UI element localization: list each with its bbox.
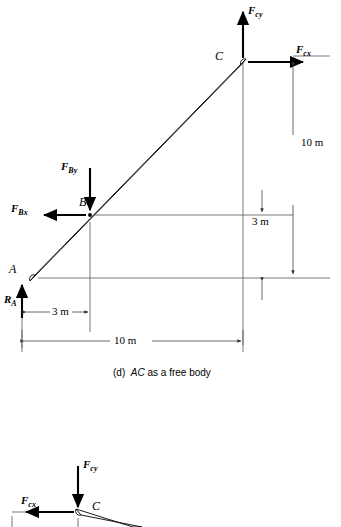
force-subscript: cy — [255, 10, 262, 19]
force-subscript: cx — [28, 500, 36, 509]
force-label-Fcx-bottom: Fcx — [21, 495, 36, 509]
pin-dot-B — [88, 213, 92, 217]
force-subscript: A — [11, 299, 16, 308]
dim-label-vertical-10m: 10 m — [301, 137, 323, 148]
force-subscript: cy — [90, 464, 97, 473]
caption-prefix: (d) — [113, 367, 125, 378]
main-panel-geometry — [22, 12, 330, 352]
force-label-Fcy: Fcy — [248, 5, 262, 19]
dim-label-horizontal-3m: 3 m — [52, 306, 69, 317]
point-label-B: B — [79, 196, 86, 208]
force-label-Ra: RA — [4, 294, 17, 308]
caption-member-name: AC — [131, 367, 145, 378]
point-label-C-bottom: C — [92, 500, 100, 512]
dim-label-vertical-3m: 3 m — [252, 216, 269, 227]
free-body-diagram-figure — [0, 0, 341, 527]
point-label-A: A — [9, 263, 16, 275]
dim-label-horizontal-10m: 10 m — [114, 335, 136, 346]
force-subscript: Bx — [18, 208, 27, 217]
force-subscript: By — [68, 166, 77, 175]
force-label-Fbx: FBx — [11, 203, 28, 217]
force-label-Fcx: Fcx — [296, 44, 311, 58]
force-label-Fby: FBy — [61, 161, 77, 175]
force-label-Fcy-bottom: Fcy — [83, 459, 97, 473]
caption-rest: as a free body — [147, 367, 210, 378]
force-subscript: cx — [303, 49, 311, 58]
point-label-C: C — [215, 50, 223, 62]
member-CB-bottom — [75, 509, 142, 527]
figure-caption: (d) AC as a free body — [113, 368, 211, 378]
